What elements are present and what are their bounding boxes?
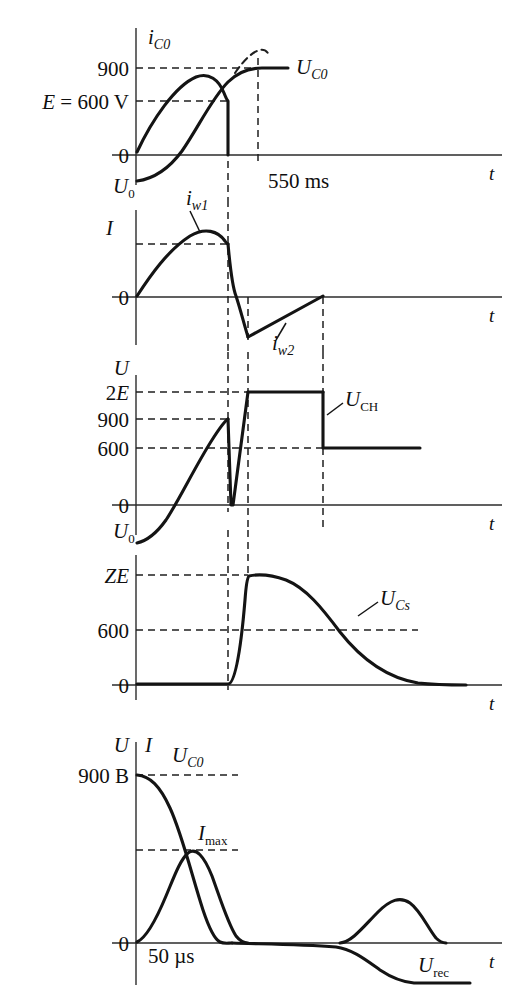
panel-3-leader-uch (327, 403, 343, 415)
panel-5-annotation-50us: 50 µs (148, 944, 195, 968)
panel-1-tick-600: E = 600 V (41, 90, 129, 114)
panel-5-label-uc0: UC0 (172, 743, 204, 770)
panel-3-curve-charge (137, 419, 228, 543)
panel-3-axis-label-t: t (489, 513, 495, 534)
panel-5-ylabel-i: I (144, 733, 153, 757)
panel-3: U 2E 900 600 0 U0 UCH t (98, 352, 503, 546)
panel-4-axis-label-t: t (489, 693, 495, 714)
panel-2-curve-iw2 (248, 296, 323, 337)
panel-3-tick-0: 0 (119, 494, 130, 518)
panel-1-axis-label-t: t (489, 163, 495, 184)
panel-4: ZE 600 0 UCs t (98, 530, 503, 714)
panel-4-tick-600: 600 (98, 619, 130, 643)
panel-2-ylabel: I (105, 216, 114, 240)
panel-5-label-imax: Imax (197, 821, 228, 848)
panel-1-label-ic0: iC0 (148, 25, 170, 52)
panel-1-label-u0: U0 (113, 174, 135, 201)
panel-2-curve-iw1 (137, 231, 228, 296)
panel-3-tick-600: 600 (98, 437, 130, 461)
panel-4-leader-ucs (358, 602, 378, 616)
panel-2-axis-label-t: t (489, 305, 495, 326)
waveform-figure: iC0 900 E = 600 V 0 U0 UC0 550 ms t I 0 … (0, 0, 527, 997)
panel-5: U I 900 B 0 UC0 Imax 50 µs Urec t (78, 733, 502, 985)
panel-3-label-uch: UCH (345, 387, 378, 414)
panel-1-annotation-550ms: 550 ms (268, 169, 329, 193)
panel-2-label-iw1: iw1 (186, 186, 208, 213)
panel-1-tick-0: 0 (119, 144, 130, 168)
panel-3-label-u0: U0 (113, 519, 135, 546)
panel-3-ylabel: U (114, 356, 131, 380)
panel-5-label-urec: Urec (418, 953, 449, 980)
panel-5-tick-0: 0 (119, 932, 130, 956)
panel-5-curve-i-second (340, 900, 446, 943)
panel-1-label-uc0: UC0 (296, 55, 328, 82)
panel-2-leader-iw1 (190, 211, 200, 232)
panel-4-tick-ZE: ZE (104, 564, 129, 588)
panel-1-curve-ic0 (137, 75, 228, 155)
panel-5-ylabel-u: U (114, 733, 131, 757)
panel-3-tick-2E: 2E (106, 381, 130, 405)
panel-1-curve-uc0 (137, 68, 288, 181)
panel-5-axis-label-t: t (489, 951, 495, 972)
panel-1: iC0 900 E = 600 V 0 U0 UC0 550 ms t (41, 25, 502, 201)
panel-2: I 0 iw1 iw2 t (105, 186, 502, 358)
panel-3-tick-900: 900 (98, 408, 130, 432)
panel-5-curve-i (137, 851, 248, 943)
panel-4-label-ucs: UCs (380, 586, 411, 613)
panel-4-tick-0: 0 (119, 674, 130, 698)
panel-2-curve-transition (228, 244, 248, 337)
panel-2-tick-0: 0 (119, 286, 130, 310)
panel-1-tick-900: 900 (98, 57, 130, 81)
panel-2-label-iw2: iw2 (272, 331, 294, 358)
panel-5-tick-900b: 900 B (78, 764, 129, 788)
